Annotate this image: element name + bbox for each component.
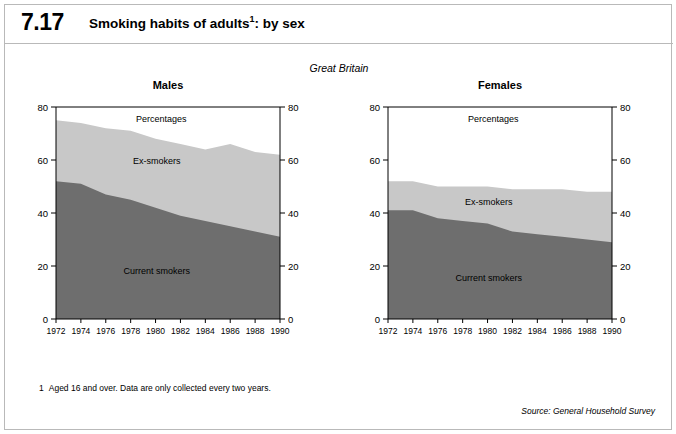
source-note: Source: General Household Survey xyxy=(521,406,655,416)
y-axis-label-left: 40 xyxy=(369,208,380,219)
y-axis-label-right: 80 xyxy=(288,102,299,113)
x-axis-label: 1974 xyxy=(71,326,90,336)
x-axis-label: 1986 xyxy=(553,326,572,336)
x-axis-label: 1980 xyxy=(146,326,165,336)
y-axis-label-left: 60 xyxy=(369,155,380,166)
x-axis-label: 1984 xyxy=(528,326,547,336)
y-axis-label-right: 80 xyxy=(620,102,631,113)
x-axis-label: 1974 xyxy=(403,326,422,336)
current-smokers-label: Current smokers xyxy=(456,273,523,283)
x-axis-label: 1986 xyxy=(221,326,240,336)
y-axis-label-left: 80 xyxy=(37,102,48,113)
x-axis-label: 1972 xyxy=(47,326,66,336)
y-axis-label-right: 20 xyxy=(288,261,299,272)
y-axis-label-left: 80 xyxy=(369,102,380,113)
x-axis-label: 1976 xyxy=(96,326,115,336)
y-axis-label-right: 40 xyxy=(288,208,299,219)
y-axis-label-left: 40 xyxy=(37,208,48,219)
x-axis-label: 1988 xyxy=(246,326,265,336)
x-axis-label: 1982 xyxy=(171,326,190,336)
y-axis-label-left: 20 xyxy=(37,261,48,272)
percentages-label: Percentages xyxy=(468,114,519,124)
footnote: 1Aged 16 and over. Data are only collect… xyxy=(39,383,271,393)
y-axis-label-left: 60 xyxy=(37,155,48,166)
panel-title-males: Males xyxy=(23,79,313,91)
x-axis-label: 1988 xyxy=(578,326,597,336)
x-axis-label: 1984 xyxy=(196,326,215,336)
y-axis-label-left: 0 xyxy=(375,314,380,325)
x-axis-label: 1990 xyxy=(271,326,290,336)
footnote-number: 1 xyxy=(39,383,44,393)
current-smokers-label: Current smokers xyxy=(124,266,191,276)
header-divider xyxy=(5,43,673,44)
ex-smokers-label: Ex-smokers xyxy=(133,156,181,166)
x-axis-label: 1976 xyxy=(428,326,447,336)
plot-area-females: 0020204040606080801972197419761978198019… xyxy=(355,95,645,355)
figure-title-text: Smoking habits of adults xyxy=(89,16,250,31)
panel-title-females: Females xyxy=(355,79,645,91)
area-chart-males: 0020204040606080801972197419761978198019… xyxy=(23,95,313,355)
chart-panel-females: Females 00202040406060808019721974197619… xyxy=(355,79,645,359)
y-axis-label-left: 20 xyxy=(369,261,380,272)
y-axis-label-right: 60 xyxy=(620,155,631,166)
figure-page: 7.17 Smoking habits of adults1: by sex G… xyxy=(0,0,676,434)
figure-number: 7.17 xyxy=(21,9,64,36)
x-axis-label: 1972 xyxy=(379,326,398,336)
figure-header: 7.17 Smoking habits of adults1: by sex xyxy=(5,5,673,43)
x-axis-label: 1980 xyxy=(478,326,497,336)
y-axis-label-right: 20 xyxy=(620,261,631,272)
page-title: Smoking habits of adults1: by sex xyxy=(89,14,305,31)
area-chart-females: 0020204040606080801972197419761978198019… xyxy=(355,95,645,355)
y-axis-label-left: 0 xyxy=(43,314,48,325)
x-axis-label: 1978 xyxy=(453,326,472,336)
region-subtitle: Great Britain xyxy=(5,62,673,74)
y-axis-label-right: 40 xyxy=(620,208,631,219)
ex-smokers-label: Ex-smokers xyxy=(465,197,513,207)
x-axis-label: 1978 xyxy=(121,326,140,336)
footnote-text: Aged 16 and over. Data are only collecte… xyxy=(49,383,271,393)
y-axis-label-right: 0 xyxy=(620,314,625,325)
plot-area-males: 0020204040606080801972197419761978198019… xyxy=(23,95,313,355)
x-axis-label: 1982 xyxy=(503,326,522,336)
figure-title-suffix: : by sex xyxy=(255,16,305,31)
percentages-label: Percentages xyxy=(136,114,187,124)
y-axis-label-right: 0 xyxy=(288,314,293,325)
figure-plate: 7.17 Smoking habits of adults1: by sex G… xyxy=(4,4,672,430)
y-axis-label-right: 60 xyxy=(288,155,299,166)
x-axis-label: 1990 xyxy=(603,326,622,336)
chart-panel-males: Males 0020204040606080801972197419761978… xyxy=(23,79,313,359)
